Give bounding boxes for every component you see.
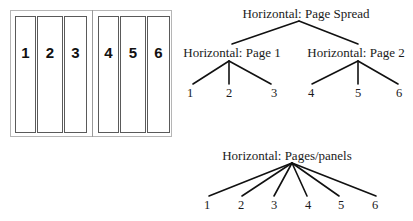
tree-panels-edges — [209, 163, 376, 196]
tree-leaf-2: 2 — [226, 86, 232, 100]
tree-leaf-1: 1 — [187, 86, 193, 100]
tree-panels-leaf-3: 3 — [271, 198, 277, 212]
tree-panels-leaf-4: 4 — [305, 198, 312, 212]
tree-panels-root-label: Horizontal: Pages/panels — [222, 148, 352, 163]
tree-leaf-4: 4 — [308, 86, 315, 100]
tree-panels-leaf-1: 1 — [204, 198, 210, 212]
tree-leaf-6: 6 — [396, 86, 402, 100]
tree-leaf-3: 3 — [271, 86, 277, 100]
tree-panels-leaf-2: 2 — [238, 198, 244, 212]
tree-spread-root-label: Horizontal: Page Spread — [242, 6, 370, 21]
tree-diagrams: Horizontal: Page Spread Horizontal: Page… — [0, 0, 413, 221]
tree-panels-leaf-6: 6 — [372, 198, 378, 212]
tree-page1-label: Horizontal: Page 1 — [183, 45, 280, 60]
tree-leaf-5: 5 — [355, 86, 361, 100]
tree-page2-label: Horizontal: Page 2 — [307, 45, 404, 60]
tree-panels-leaf-5: 5 — [338, 198, 344, 212]
